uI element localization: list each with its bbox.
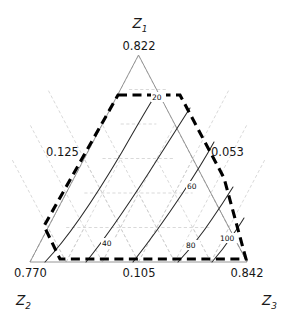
axis-value-right: 0.053: [211, 145, 244, 159]
contour-curves: [45, 99, 244, 262]
contour-label-40: 40: [102, 239, 112, 248]
contour-labels: 20 40 60 80 100: [101, 92, 238, 250]
vertex-label-z2: Z2: [15, 292, 31, 311]
contour-label-60: 60: [187, 182, 197, 191]
contour-curve-80: [178, 187, 233, 262]
axis-value-bottom-center: 0.105: [123, 266, 156, 280]
contour-curve-60: [133, 142, 214, 262]
contour-curve-20: [45, 99, 153, 262]
axis-value-bottom-left: 0.770: [14, 266, 47, 280]
vertex-label-z3: Z3: [261, 292, 277, 311]
ternary-diagram-figure: 20 40 60 80 100 Z1 Z2 Z3 0.822: [0, 0, 295, 320]
axis-value-top: 0.822: [123, 39, 156, 53]
vertex-label-z1: Z1: [132, 15, 148, 34]
contour-label-20: 20: [152, 93, 162, 102]
contour-label-80: 80: [186, 241, 196, 250]
axis-value-left: 0.125: [46, 145, 79, 159]
contour-label-100: 100: [220, 234, 235, 243]
ternary-plot-svg: 20 40 60 80 100 Z1 Z2 Z3 0.822: [0, 0, 295, 320]
axis-value-bottom-right: 0.842: [231, 266, 264, 280]
